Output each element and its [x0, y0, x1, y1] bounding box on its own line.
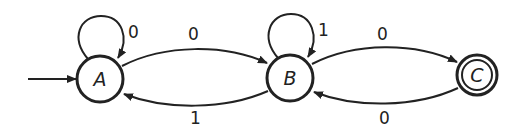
label-a-b: 0 — [188, 24, 199, 44]
state-a: A — [77, 56, 123, 102]
state-c-accepting: C — [457, 55, 497, 95]
label-b-c: 0 — [377, 24, 388, 44]
edge-a-a — [79, 16, 124, 59]
label-c-b: 0 — [379, 108, 390, 127]
label-b-a: 1 — [190, 108, 201, 127]
edge-a-b — [122, 49, 267, 66]
label-a-a: 0 — [128, 22, 139, 42]
edge-b-a — [124, 91, 268, 106]
edge-b-b — [269, 14, 314, 58]
edge-c-b — [314, 88, 458, 104]
state-b: B — [267, 55, 313, 101]
state-b-label: B — [283, 67, 296, 89]
state-a-label: A — [92, 68, 107, 90]
edge-b-c — [312, 47, 457, 64]
label-b-b: 1 — [318, 20, 329, 40]
state-c-label: C — [470, 64, 484, 86]
automaton-diagram: 0 0 1 1 0 0 A B C — [0, 0, 530, 127]
